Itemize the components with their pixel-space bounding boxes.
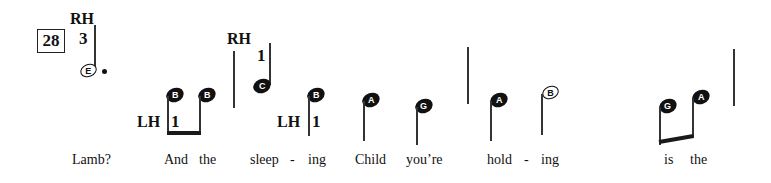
fingering-number: 1 (171, 113, 180, 130)
lyric-syllable: the (690, 152, 707, 168)
note-stem (94, 25, 96, 69)
lyric-syllable: is (664, 152, 673, 168)
fingering-number: 1 (312, 113, 321, 130)
fingering-number: 3 (79, 30, 88, 47)
barline (467, 47, 469, 104)
note-e-half: E (78, 61, 99, 79)
measure-number-label: 28 (43, 31, 60, 51)
lyric-syllable: ing (541, 152, 559, 168)
note-stem (363, 101, 365, 141)
lyric-syllable: ing (308, 152, 326, 168)
right-hand-label: RH (70, 11, 94, 27)
right-hand-label: RH (227, 31, 251, 47)
beam (167, 131, 201, 135)
left-hand-label: LH (137, 114, 160, 130)
note-stem (199, 96, 201, 134)
barline (733, 49, 735, 106)
lyric-syllable: And (164, 152, 188, 168)
note-stem (416, 107, 418, 145)
note-stem (269, 43, 271, 85)
lyric-syllable: sleep (250, 152, 279, 168)
measure-number: 28 (37, 29, 65, 53)
lyric-syllable: you’re (406, 152, 443, 168)
note-stem (490, 101, 492, 141)
note-stem (167, 96, 169, 134)
fingering-number: 1 (257, 47, 266, 64)
beam (659, 134, 694, 144)
lyric-hyphen: - (524, 152, 529, 168)
lyric-syllable: Lamb? (72, 152, 111, 168)
lyric-syllable: Child (355, 152, 386, 168)
note-b-half: B (540, 83, 561, 101)
barline (233, 51, 235, 108)
note-stem (541, 94, 543, 135)
lyric-syllable: hold (487, 152, 512, 168)
left-hand-label: LH (277, 114, 300, 130)
lyric-syllable: the (199, 152, 216, 168)
note-stem (308, 96, 310, 136)
lyric-hyphen: - (290, 152, 295, 168)
note-stem (692, 98, 694, 138)
augmentation-dot (102, 69, 107, 74)
